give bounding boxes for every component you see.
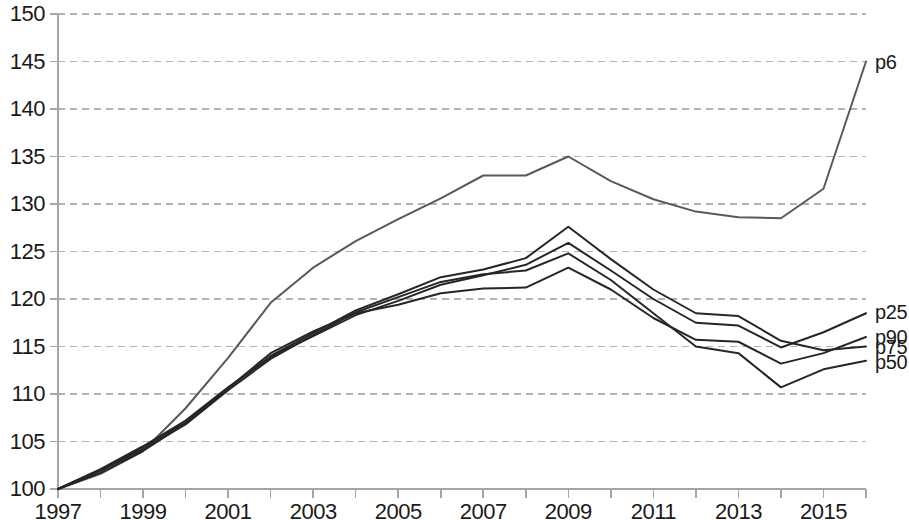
x-axis-tick-label: 1999 [108,501,178,520]
line-chart: 1001051101151201251301351401451501997199… [0,0,909,520]
x-axis-tick-label: 2001 [193,501,263,520]
y-axis-tick-label: 115 [0,336,45,358]
x-axis-tick-label: 2013 [703,501,773,520]
x-axis-tick-label: 1997 [23,501,93,520]
y-axis-tick-label: 150 [0,3,45,25]
x-axis-tick-label: 2005 [363,501,433,520]
y-axis-tick-label: 130 [0,193,45,215]
series-line-p50 [58,253,866,489]
y-axis-tick-label: 140 [0,98,45,120]
y-axis-tick-label: 105 [0,431,45,453]
y-axis-tick-label: 145 [0,51,45,73]
series-label-p25: p25 [875,302,907,322]
y-axis-tick-label: 125 [0,241,45,263]
x-axis-tick-label: 2015 [788,501,858,520]
x-axis-tick-label: 2007 [448,501,518,520]
x-axis-tick-label: 2003 [278,501,348,520]
x-axis-tick-label: 2009 [533,501,603,520]
series-line-p25 [58,243,866,489]
chart-plot-area [0,0,909,520]
y-axis-tick-label: 110 [0,383,45,405]
series-label-p50: p50 [875,352,907,372]
y-axis-tick-label: 135 [0,146,45,168]
x-axis-tick-label: 2011 [618,501,688,520]
series-line-p90 [58,268,866,489]
series-label-p6: p6 [875,52,896,72]
y-axis-tick-label: 120 [0,288,45,310]
y-axis-tick-label: 100 [0,478,45,500]
